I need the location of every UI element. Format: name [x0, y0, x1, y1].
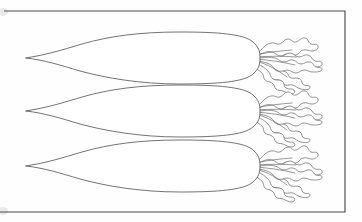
root-body: [26, 140, 260, 192]
leaf-cluster-1: [255, 38, 322, 94]
leaf-cluster-2: [255, 91, 322, 147]
root-body: [26, 85, 260, 137]
figure-canvas: Three rooted vegetables with leafy tops: [0, 0, 362, 222]
specimen-group-3: [26, 140, 322, 202]
specimen-group-2: [26, 85, 322, 147]
botanical-plate-svg: [0, 0, 362, 222]
scan-smudge-top-left: [0, 8, 8, 16]
root-body: [26, 32, 260, 84]
scan-smudge-bottom-left: [0, 207, 8, 215]
leaf-cluster-3: [255, 146, 322, 202]
